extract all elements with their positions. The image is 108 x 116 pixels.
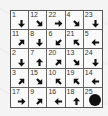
- grid-cell[interactable]: 19: [66, 69, 84, 88]
- arrow-down-icon: [17, 19, 26, 28]
- arrow-puzzle-grid: 1 12 22 4 23 11 8 6 21 5 2 7 20 13 24 3 …: [10, 10, 103, 108]
- arrow-down-icon: [91, 19, 100, 28]
- cell-number: 4: [67, 11, 71, 19]
- arrow-down-right-icon: [35, 19, 44, 28]
- arrow-up-left-icon: [54, 77, 63, 86]
- grid-cell[interactable]: 4: [66, 11, 84, 30]
- arrow-down-icon: [91, 58, 100, 67]
- cell-number: 1: [12, 11, 16, 19]
- cell-number: 3: [12, 69, 16, 77]
- cell-number: 11: [12, 30, 19, 38]
- cell-number: 18: [67, 88, 75, 96]
- arrow-right-icon: [17, 97, 26, 106]
- cell-number: 21: [67, 30, 75, 38]
- grid-cell[interactable]: 6: [47, 30, 65, 49]
- cell-number: 13: [67, 49, 75, 57]
- grid-cell[interactable]: 12: [29, 11, 47, 30]
- arrow-up-right-icon: [17, 38, 26, 47]
- grid-cell[interactable]: 13: [66, 49, 84, 68]
- cell-number: 20: [48, 49, 56, 57]
- arrow-left-icon: [91, 77, 100, 86]
- cell-number: 9: [30, 88, 34, 96]
- grid-cell[interactable]: 22: [47, 11, 65, 30]
- cell-number: 23: [85, 11, 93, 19]
- grid-cell[interactable]: 16: [47, 88, 65, 107]
- grid-cell[interactable]: 17: [11, 88, 29, 107]
- cell-number: 12: [30, 11, 38, 19]
- arrow-up-right-icon: [54, 58, 63, 67]
- grid-cell[interactable]: 10: [47, 69, 65, 88]
- grid-cell[interactable]: 20: [47, 49, 65, 68]
- grid-cell[interactable]: 9: [29, 88, 47, 107]
- cell-number: 5: [85, 30, 89, 38]
- arrow-up-icon: [72, 97, 81, 106]
- grid-cell[interactable]: 1: [11, 11, 29, 30]
- cell-number: 7: [30, 49, 34, 57]
- arrow-down-left-icon: [54, 38, 63, 47]
- grid-cell[interactable]: 8: [29, 30, 47, 49]
- arrow-down-icon: [35, 38, 44, 47]
- cell-number: 24: [85, 49, 93, 57]
- grid-cell[interactable]: 11: [11, 30, 29, 49]
- grid-cell[interactable]: 14: [84, 69, 102, 88]
- arrow-left-icon: [91, 38, 100, 47]
- cell-number: 6: [48, 30, 52, 38]
- grid-cell[interactable]: 18: [66, 88, 84, 107]
- arrow-down-right-icon: [72, 19, 81, 28]
- cell-number: 19: [67, 69, 75, 77]
- grid-cell[interactable]: 23: [84, 11, 102, 30]
- arrow-up-right-icon: [35, 97, 44, 106]
- arrow-down-right-icon: [72, 58, 81, 67]
- cell-number: 22: [48, 11, 56, 19]
- grid-cell[interactable]: 24: [84, 49, 102, 68]
- arrow-up-icon: [35, 58, 44, 67]
- cell-number: 8: [30, 30, 34, 38]
- arrow-up-left-icon: [72, 38, 81, 47]
- cell-number: 16: [48, 88, 56, 96]
- grid-cell[interactable]: 21: [66, 30, 84, 49]
- arrow-left-icon: [54, 97, 63, 106]
- cell-number: 14: [85, 69, 93, 77]
- grid-cell[interactable]: 25: [84, 88, 102, 107]
- grid-cell[interactable]: 5: [84, 30, 102, 49]
- cell-number: 2: [12, 49, 16, 57]
- arrow-down-icon: [17, 58, 26, 67]
- grid-cell[interactable]: 15: [29, 69, 47, 88]
- arrow-down-right-icon: [35, 77, 44, 86]
- cell-number: 10: [48, 69, 56, 77]
- arrow-up-right-icon: [17, 77, 26, 86]
- grid-cell[interactable]: 7: [29, 49, 47, 68]
- grid-cell[interactable]: 3: [11, 69, 29, 88]
- cell-number: 15: [30, 69, 38, 77]
- cell-number: 17: [12, 88, 20, 96]
- arrow-right-icon: [54, 19, 63, 28]
- grid-cell[interactable]: 2: [11, 49, 29, 68]
- end-circle-icon: [89, 94, 101, 106]
- arrow-up-left-icon: [72, 77, 81, 86]
